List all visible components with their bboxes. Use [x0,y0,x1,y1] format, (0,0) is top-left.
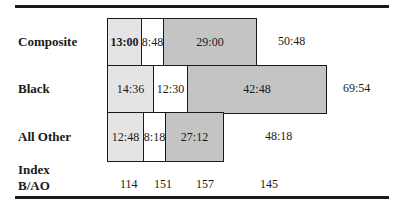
composite-total: 50:48 [278,34,305,49]
index-label: Index B/AO [18,162,50,194]
row-label-all-other: All Other [18,129,71,145]
all-other-segment-1: 12:48 [107,112,144,162]
all-other-total: 48:18 [265,129,292,144]
black-total: 69:54 [343,81,370,96]
all-other-segment-2: 8:18 [143,112,167,162]
composite-segment-2: 8:48 [141,18,165,66]
index-label-line2: B/AO [18,178,50,194]
black-segment-1: 14:36 [107,65,154,114]
black-segment-3: 42:48 [187,65,327,114]
index-label-line1: Index [18,162,50,178]
black-segment-2: 12:30 [153,65,189,114]
all-other-segment-3: 27:12 [165,112,224,162]
composite-segment-3: 29:00 [163,18,257,66]
bottom-rule [15,196,389,199]
row-label-black: Black [18,81,50,97]
top-rule [15,5,389,8]
composite-segment-1: 13:00 [107,18,142,66]
row-label-composite: Composite [18,34,77,50]
